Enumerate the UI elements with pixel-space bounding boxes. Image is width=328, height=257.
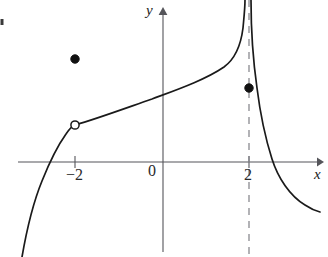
x-axis <box>18 158 324 167</box>
x-tick-label-minus2: −2 <box>66 166 83 184</box>
edge-artifact-mark <box>1 19 4 25</box>
x-axis-label: x <box>314 166 321 183</box>
y-axis-arrowhead <box>159 7 168 15</box>
filled-dot-isolated-point <box>71 55 79 63</box>
filled-dot-point-at-2 <box>245 84 253 92</box>
plot-canvas <box>0 0 328 257</box>
origin-label: 0 <box>148 162 156 180</box>
open-circle-point-at-minus2 <box>71 121 79 129</box>
x-tick-label-plus2: 2 <box>244 166 252 184</box>
y-axis-label: y <box>146 2 153 19</box>
curve-left-branch <box>22 0 245 257</box>
y-axis <box>159 7 168 252</box>
curve-right-branch <box>251 0 320 212</box>
function-graph-figure: y x 0 −2 2 <box>0 0 328 257</box>
